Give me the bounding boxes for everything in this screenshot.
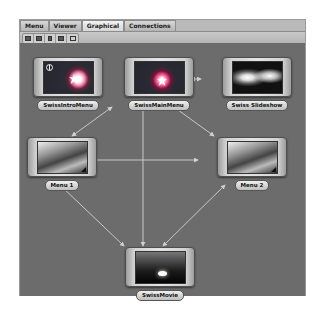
node-label: SwissIntroMenu [37,100,99,111]
page-icon [48,36,52,41]
node-frame [222,57,292,97]
folder-icon [58,36,64,41]
tab-menu[interactable]: Menu [20,20,49,31]
node-swiss-intro-menu[interactable]: SwissIntroMenu [33,57,103,111]
tab-connections[interactable]: Connections [124,20,176,31]
layout-grid-icon [25,36,31,41]
layout-grid-button[interactable] [23,34,34,43]
node-label: SwissMainMenu [128,100,190,111]
slideshow-thumbnail [232,61,283,94]
node-frame [125,247,195,287]
folder-button[interactable] [56,34,67,43]
node-swiss-main-menu[interactable]: SwissMainMenu [124,57,194,111]
node-menu-1[interactable]: Menu 1 [27,137,97,191]
node-swiss-movie[interactable]: SwissMovie [125,247,195,301]
landscape-thumbnail [227,141,278,174]
sunrise-thumbnail [135,251,186,284]
sparkle-icon [69,74,79,84]
dvd-project-window: Menu Viewer Graphical Connections [19,19,306,296]
tab-viewer[interactable]: Viewer [49,20,82,31]
page-button[interactable] [45,34,56,43]
tab-graphical[interactable]: Graphical [82,20,124,31]
landscape-thumbnail [37,141,88,174]
link-menu2-movie [163,185,225,246]
toolbar [20,32,305,43]
node-swiss-slideshow[interactable]: Swiss Slideshow [222,57,292,111]
refresh-button[interactable] [67,34,78,43]
link-main-menu2 [174,107,214,136]
node-frame [27,137,97,177]
node-label: SwissMovie [136,290,184,301]
node-label: Menu 2 [235,180,270,191]
node-label: Swiss Slideshow [226,100,289,111]
menu-sparkle-thumbnail [134,61,185,94]
layout-list-button[interactable] [34,34,45,43]
menu-sparkle-thumbnail [43,61,94,94]
node-frame [33,57,103,97]
layout-list-icon [36,36,42,41]
node-label: Menu 1 [45,180,80,191]
sun-glow [158,271,167,276]
link-menu1-movie [60,185,124,246]
tab-bar: Menu Viewer Graphical Connections [20,20,176,31]
corner-mark-icon [81,167,86,172]
refresh-icon [70,36,76,41]
node-menu-2[interactable]: Menu 2 [217,137,287,191]
motion-icon [46,64,53,71]
sparkle-icon [157,76,167,86]
link-main-menu1 [72,107,112,136]
corner-mark-icon [271,167,276,172]
node-frame [217,137,287,177]
graph-canvas[interactable]: SwissIntroMenu SwissMainMenu Swiss Slide… [20,43,305,296]
node-frame [124,57,194,97]
